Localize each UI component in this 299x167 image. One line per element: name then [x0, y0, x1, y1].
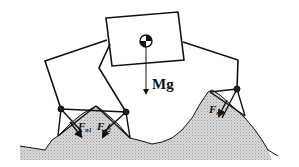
diagram-canvas: Mg Fn1 Fn2 Fn3 — [0, 0, 299, 167]
leg-right — [183, 42, 238, 89]
leg-left-outer — [45, 40, 107, 109]
joint-icon — [123, 109, 129, 115]
joint-icon — [234, 86, 240, 92]
gravity-label: Mg — [152, 76, 174, 92]
joint-icon — [58, 106, 64, 112]
robot-body: Mg — [106, 12, 184, 92]
